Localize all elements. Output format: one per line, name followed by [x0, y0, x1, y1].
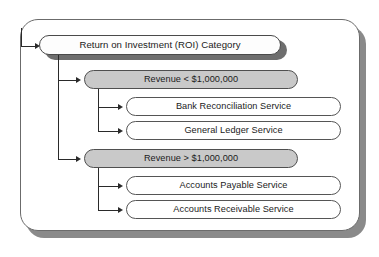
root-node[interactable]: Return on Investment (ROI) Category	[39, 35, 281, 55]
category-2-connector	[58, 159, 78, 160]
category-node-1-label: Revenue < $1,000,000	[144, 75, 238, 84]
service-node-2-2[interactable]: Accounts Receivable Service	[126, 200, 341, 219]
category-1-connector	[58, 80, 78, 81]
main-trunk	[58, 55, 59, 159]
category-2-subtrunk	[98, 168, 99, 210]
service-node-2-2-label: Accounts Receivable Service	[173, 205, 293, 214]
service-node-1-1[interactable]: Bank Reconciliation Service	[126, 97, 341, 116]
category-node-1[interactable]: Revenue < $1,000,000	[84, 70, 298, 89]
category-node-2-label: Revenue > $1,000,000	[144, 154, 238, 163]
category-2-arrowhead	[76, 156, 81, 162]
service-node-2-1[interactable]: Accounts Payable Service	[126, 176, 341, 195]
service-2-1-arrowhead	[118, 183, 123, 189]
service-1-2-arrowhead	[118, 128, 123, 134]
service-2-1-connector	[98, 186, 120, 187]
service-node-1-2-label: General Ledger Service	[184, 126, 282, 135]
root-node-label: Return on Investment (ROI) Category	[79, 40, 240, 50]
diagram-canvas: Return on Investment (ROI) Category Reve…	[0, 0, 379, 257]
service-1-1-connector	[98, 107, 120, 108]
service-2-2-arrowhead	[118, 207, 123, 213]
service-1-2-connector	[98, 131, 120, 132]
service-node-1-2[interactable]: General Ledger Service	[126, 121, 341, 140]
service-node-1-1-label: Bank Reconciliation Service	[176, 102, 291, 111]
service-2-2-connector	[98, 210, 120, 211]
root-entry-connector-vertical	[21, 28, 22, 46]
category-1-subtrunk	[98, 89, 99, 131]
category-1-arrowhead	[76, 77, 81, 83]
service-1-1-arrowhead	[118, 104, 123, 110]
service-node-2-1-label: Accounts Payable Service	[180, 181, 288, 190]
category-node-2[interactable]: Revenue > $1,000,000	[84, 149, 298, 168]
